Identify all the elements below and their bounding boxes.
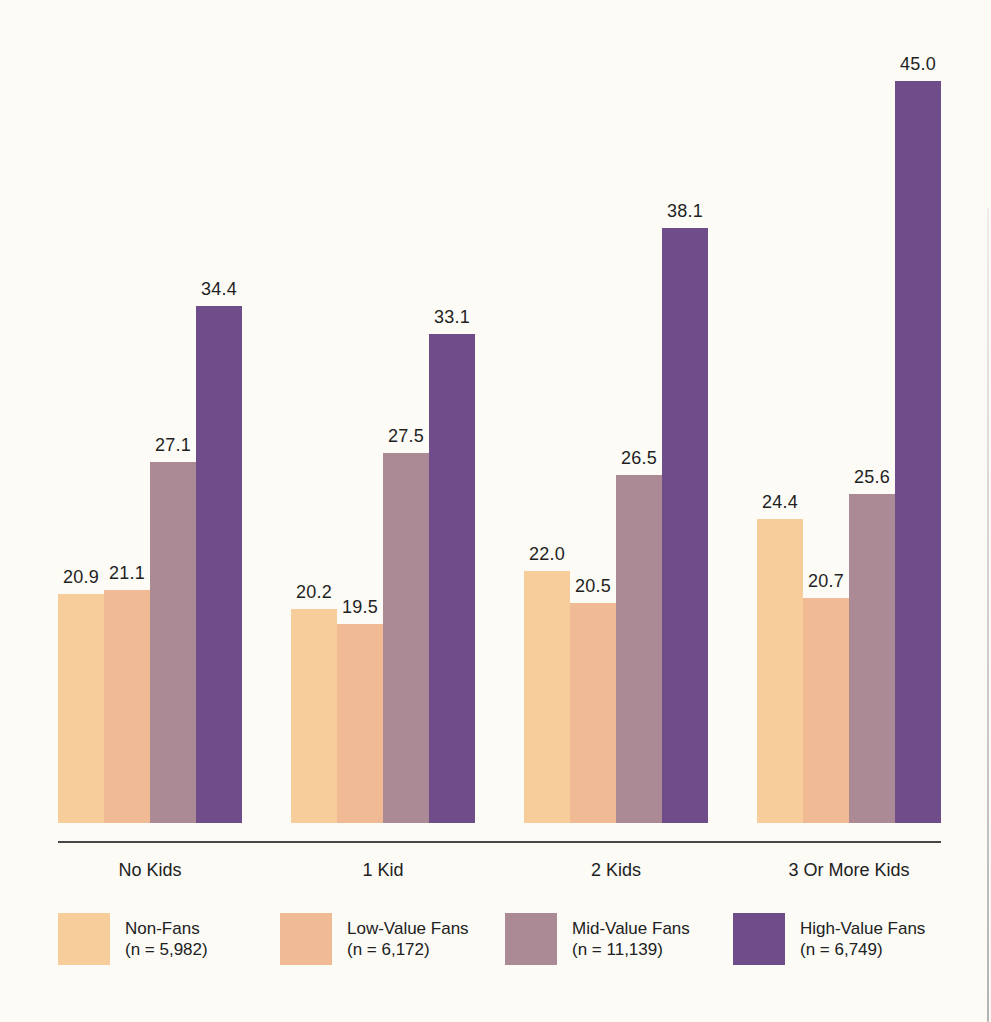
value-label: 24.4 [745, 492, 815, 512]
bar-low-value-fans-2-kids [570, 603, 616, 823]
x-axis-line [58, 841, 941, 843]
bar-high-value-fans-no-kids [196, 306, 242, 823]
bar-mid-value-fans-3-or-more-kids [849, 494, 895, 823]
bar-non-fans-3-or-more-kids [757, 519, 803, 823]
bar-non-fans-2-kids [524, 571, 570, 823]
bar-mid-value-fans-2-kids [616, 475, 662, 823]
bar-high-value-fans-3-or-more-kids [895, 81, 941, 823]
x-axis-label-no-kids: No Kids [58, 859, 242, 881]
page-edge-artifact [987, 208, 989, 1022]
bar-high-value-fans-1-kid [429, 334, 475, 823]
bar-high-value-fans-2-kids [662, 228, 708, 823]
bar-low-value-fans-1-kid [337, 624, 383, 823]
value-label: 34.4 [184, 279, 254, 299]
bar-low-value-fans-no-kids [104, 590, 150, 823]
x-axis-label-1-kid: 1 Kid [291, 859, 475, 881]
value-label: 22.0 [512, 544, 582, 564]
chart-page: 20.921.127.134.420.219.527.533.122.020.5… [0, 0, 991, 1022]
x-axis-label-2-kids: 2 Kids [524, 859, 708, 881]
bar-mid-value-fans-no-kids [150, 462, 196, 823]
value-label: 33.1 [417, 307, 487, 327]
bar-non-fans-1-kid [291, 609, 337, 823]
value-label: 38.1 [650, 201, 720, 221]
bar-non-fans-no-kids [58, 594, 104, 823]
value-label: 45.0 [883, 54, 953, 74]
x-axis-label-3-or-more-kids: 3 Or More Kids [757, 859, 941, 881]
bar-low-value-fans-3-or-more-kids [803, 598, 849, 823]
bar-mid-value-fans-1-kid [383, 453, 429, 823]
